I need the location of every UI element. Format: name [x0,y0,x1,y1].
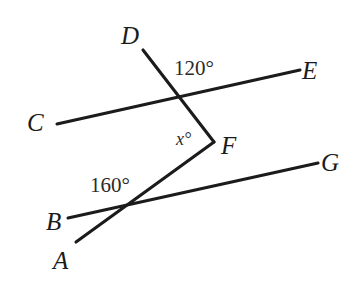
point-label-f: F [221,133,236,158]
angle-label-160: 160° [90,175,130,196]
point-label-b: B [46,209,61,234]
point-label-a: A [53,248,68,273]
angle-label-120: 120° [174,58,214,79]
angle-label-x: x° [176,130,191,148]
geometry-diagram: D E C F G B A 120° x° 160° [0,0,364,289]
point-label-d: D [121,23,139,48]
point-label-g: G [321,150,339,175]
point-label-c: C [27,110,44,135]
point-label-e: E [302,58,317,83]
